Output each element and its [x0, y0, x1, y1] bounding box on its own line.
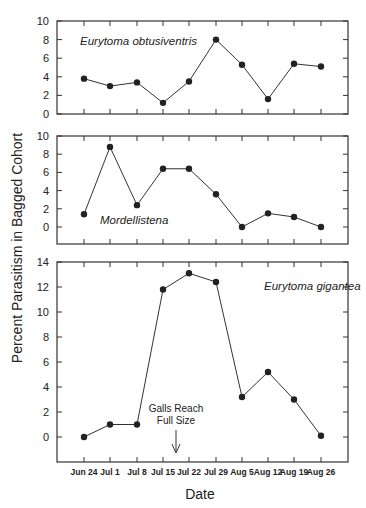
y-tick-label: 10: [37, 15, 49, 27]
data-point: [213, 279, 219, 285]
y-tick-label: 8: [43, 34, 49, 46]
data-point: [160, 166, 166, 172]
panel-3: 02468101214Eurytoma gigantea: [37, 256, 361, 462]
data-point: [186, 78, 192, 84]
x-tick-label: Jul 22: [177, 467, 201, 477]
data-point: [239, 394, 245, 400]
data-point: [318, 433, 324, 439]
x-tick-label: Jul 8: [127, 467, 147, 477]
panel-1: 0246810Eurytoma obtusiventris: [37, 15, 348, 120]
data-point: [81, 434, 87, 440]
x-tick-label: Aug 19: [280, 467, 309, 477]
y-tick-label: 14: [37, 256, 49, 268]
x-tick-label: Jul 1: [100, 467, 120, 477]
panel-title: Eurytoma obtusiventris: [80, 35, 197, 47]
data-point: [239, 62, 245, 68]
y-tick-label: 4: [43, 381, 49, 393]
data-point: [160, 100, 166, 106]
y-tick-label: 10: [37, 306, 49, 318]
data-point: [81, 211, 87, 217]
x-axis-label: Date: [185, 486, 215, 502]
x-tick-label: Jul 15: [151, 467, 175, 477]
y-tick-label: 10: [37, 130, 49, 142]
y-tick-label: 0: [43, 431, 49, 443]
y-tick-label: 12: [37, 281, 49, 293]
y-tick-label: 6: [43, 52, 49, 64]
data-point: [318, 63, 324, 69]
data-point: [291, 214, 297, 220]
chart-figure: 0246810Eurytoma obtusiventris0246810Mord…: [0, 0, 366, 508]
panel-title: Mordellistena: [100, 214, 168, 226]
data-point: [318, 224, 324, 230]
y-tick-label: 0: [43, 221, 49, 233]
data-point: [213, 36, 219, 42]
data-point: [291, 396, 297, 402]
series-line: [84, 40, 321, 103]
y-tick-label: 8: [43, 148, 49, 160]
data-point: [265, 96, 271, 102]
data-point: [107, 421, 113, 427]
data-point: [107, 83, 113, 89]
data-point: [213, 191, 219, 197]
annotation-galls-full-size: Galls ReachFull Size: [149, 403, 203, 453]
data-point: [265, 369, 271, 375]
data-point: [160, 286, 166, 292]
y-tick-label: 2: [43, 406, 49, 418]
x-tick-label: Aug 5: [230, 467, 254, 477]
data-point: [81, 75, 87, 81]
data-point: [186, 166, 192, 172]
data-point: [107, 144, 113, 150]
x-tick-label: Jul 29: [204, 467, 228, 477]
y-tick-label: 4: [43, 185, 49, 197]
y-tick-label: 4: [43, 71, 49, 83]
data-point: [186, 270, 192, 276]
y-tick-label: 2: [43, 203, 49, 215]
x-tick-label: Aug 26: [307, 467, 336, 477]
data-point: [134, 79, 140, 85]
x-tick-label: Aug 12: [254, 467, 283, 477]
data-point: [239, 224, 245, 230]
panel-title: Eurytoma gigantea: [264, 280, 361, 292]
y-tick-label: 6: [43, 166, 49, 178]
panel-2: 0246810Mordellistena: [37, 130, 348, 244]
x-tick-label: Jun 24: [71, 467, 98, 477]
y-tick-label: 2: [43, 89, 49, 101]
data-point: [134, 421, 140, 427]
y-tick-label: 0: [43, 108, 49, 120]
data-point: [265, 210, 271, 216]
y-tick-label: 6: [43, 356, 49, 368]
svg-text:Galls Reach: Galls Reach: [149, 403, 203, 414]
data-point: [291, 61, 297, 67]
y-tick-label: 8: [43, 331, 49, 343]
data-point: [134, 202, 140, 208]
y-axis-label: Percent Parasitism in Bagged Cohort: [9, 133, 25, 363]
svg-text:Full Size: Full Size: [157, 415, 196, 426]
